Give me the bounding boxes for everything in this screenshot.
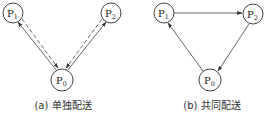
node-a-p2: P2 — [101, 3, 121, 23]
panel-b-joint-delivery: P1 P2 P0 — [154, 3, 263, 91]
caption-panel-b: (b) 共同配送 — [183, 97, 240, 112]
node-b-p2: P2 — [243, 4, 263, 24]
edge-b-p0-to-p1 — [168, 23, 203, 71]
node-b-p0: P0 — [199, 69, 221, 91]
edge-a-p0-to-p1 — [18, 22, 57, 71]
node-a-p0: P0 — [51, 69, 73, 91]
edge-a-p2-to-p0-dashed — [66, 19, 102, 68]
edge-a-p0-to-p2 — [67, 22, 106, 71]
node-b-p1: P1 — [154, 3, 174, 23]
edge-a-p1-to-p0-dashed — [22, 19, 58, 68]
node-a-p1: P1 — [3, 3, 23, 23]
caption-panel-a: (a) 单独配送 — [34, 97, 91, 112]
panel-a-separate-delivery: P1 P2 P0 — [3, 3, 121, 91]
edge-b-p2-to-p0 — [218, 24, 249, 71]
